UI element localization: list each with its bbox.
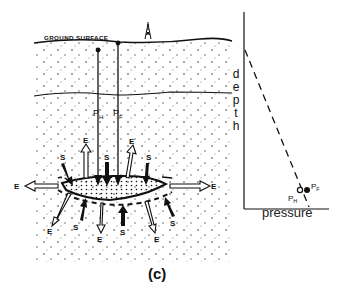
svg-text:S: S [120,228,126,237]
svg-text:E: E [83,136,89,145]
pressure-gradient-line [245,50,309,207]
svg-text:S: S [73,223,79,232]
plot-pf-label: PF [311,182,320,192]
x-axis-label: pressure [262,205,313,220]
y-axis-label: d e p t h [233,67,240,133]
figure-caption: (c) [148,265,166,282]
svg-text:e: e [233,80,240,94]
svg-text:E: E [211,182,217,191]
svg-text:S: S [170,219,176,228]
figure-canvas: GROUND SURFACE PH PF [0,0,340,295]
depth-pressure-plot: PH PF [244,12,329,209]
svg-text:d: d [233,67,240,81]
svg-text:E: E [154,235,160,244]
svg-text:E: E [129,137,135,146]
svg-text:h: h [233,119,240,133]
svg-text:E: E [47,227,53,236]
ph-point [297,187,302,192]
svg-text:t: t [234,106,238,120]
ground-surface-label: GROUND SURFACE [44,34,108,41]
svg-text:E: E [14,182,20,191]
pf-point [304,187,310,193]
svg-text:S: S [60,153,66,162]
svg-text:E: E [97,235,103,244]
plot-ph-label: PH [288,194,297,204]
svg-text:S: S [146,153,152,162]
svg-text:p: p [233,93,240,107]
derrick-icon [145,22,151,39]
svg-text:S: S [104,153,110,162]
